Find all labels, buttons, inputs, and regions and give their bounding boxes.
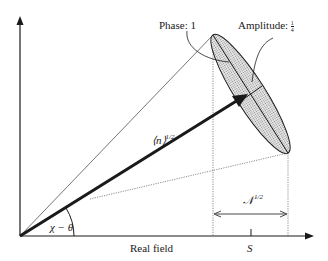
upper-tangent-line bbox=[20, 35, 213, 236]
phase-label: Phase: 1 bbox=[159, 20, 196, 31]
x-axis-arrow-icon bbox=[305, 233, 314, 240]
amplitude-fraction: 14 bbox=[291, 20, 294, 33]
width-dimension bbox=[214, 211, 287, 217]
y-axis-arrow-icon bbox=[17, 16, 24, 25]
x-axis bbox=[20, 233, 314, 240]
tick-s-label: S bbox=[247, 243, 253, 254]
uncertainty-ellipse bbox=[200, 27, 300, 161]
mean-field-vector bbox=[20, 94, 248, 236]
width-label: 𝒩1/2 bbox=[243, 194, 263, 206]
y-axis bbox=[17, 16, 24, 236]
angle-label: χ − θ bbox=[50, 222, 73, 233]
amplitude-label: Amplitude: 14 bbox=[238, 20, 294, 33]
vector-label: ⟨n⟩1/2 bbox=[152, 134, 174, 146]
amplitude-text: Amplitude: bbox=[238, 19, 291, 31]
x-axis-label: Real field bbox=[130, 243, 173, 254]
